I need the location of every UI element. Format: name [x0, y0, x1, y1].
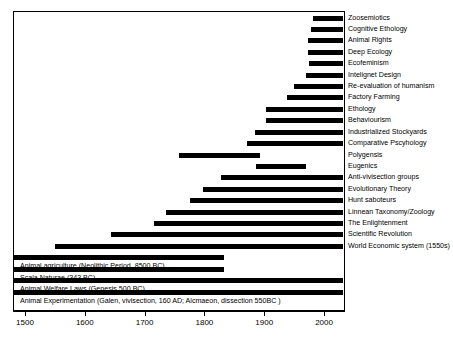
category-label: Behaviourism: [348, 117, 391, 124]
timeline-bar: [190, 198, 343, 203]
timeline-bar: [203, 187, 343, 192]
category-label: Re-evaluation of humanism: [348, 83, 434, 90]
plot-right-edge-rule: [344, 11, 345, 311]
x-axis-tick-label: 2000: [315, 319, 333, 327]
timeline-bar: [308, 38, 343, 43]
timeline-bar: [221, 175, 343, 180]
category-label: World Economic system (1550s): [348, 243, 450, 250]
timeline-bar: [308, 50, 343, 55]
x-axis-tick-label: 1600: [76, 319, 94, 327]
x-axis-tick: [85, 311, 86, 316]
timeline-bar: [13, 255, 224, 260]
category-label: Scientific Revolution: [348, 231, 412, 238]
inline-bar-label: Animal agriculture (Neolithic Period, 85…: [20, 263, 165, 270]
timeline-bar: [154, 221, 344, 226]
category-label: Deep Ecology: [348, 49, 392, 56]
inline-bar-label: Animal Experimentation (Galen, vivisecti…: [20, 298, 281, 305]
category-label: The Enlightenment: [348, 220, 408, 227]
x-axis-tick-label: 1500: [16, 319, 34, 327]
category-label: Linnean Taxonomy/Zoology: [348, 209, 435, 216]
category-label: Ethology: [348, 106, 376, 113]
category-label: Industrialized Stockyards: [348, 129, 427, 136]
category-label: Polygensis: [348, 152, 382, 159]
x-axis-tick: [264, 311, 265, 316]
timeline-chart: ZoosemioticsCognitive EthologyAnimal Rig…: [0, 0, 453, 344]
category-label: Ecofeminism: [348, 60, 389, 67]
x-axis-tick-label: 1800: [196, 319, 214, 327]
timeline-bar: [179, 153, 260, 158]
category-label: Animal Rights: [348, 37, 392, 44]
x-axis-tick: [145, 311, 146, 316]
category-label: Cognitive Ethology: [348, 26, 407, 33]
category-label: Zoosemiotics: [348, 15, 390, 22]
x-axis-tick-label: 1700: [136, 319, 154, 327]
timeline-bar: [313, 16, 343, 21]
timeline-bar: [309, 61, 344, 66]
category-label: Evolutionary Theory: [348, 186, 411, 193]
timeline-bar: [287, 95, 343, 100]
x-axis-tick: [324, 311, 325, 316]
x-axis-tick-label: 1900: [255, 319, 273, 327]
timeline-bar: [55, 244, 343, 249]
timeline-bar: [247, 141, 343, 146]
category-label: Intelignet Design: [348, 72, 401, 79]
timeline-bar: [266, 107, 343, 112]
timeline-bar: [166, 210, 344, 215]
x-axis-tick: [25, 311, 26, 316]
category-label: Anti-vivisection groups: [348, 174, 419, 181]
timeline-bar: [311, 27, 343, 32]
category-label: Comparative Pscyhology: [348, 140, 426, 147]
timeline-bar: [256, 164, 306, 169]
x-axis-line: [13, 311, 345, 312]
timeline-bar: [306, 73, 343, 78]
category-label: Eugenics: [348, 163, 377, 170]
timeline-bar: [294, 84, 343, 89]
timeline-bar: [266, 118, 343, 123]
timeline-bar: [111, 232, 344, 237]
inline-bar-label: Animal Welfare Laws (Genesis 500 BC): [20, 286, 145, 293]
category-label: Hunt saboteurs: [348, 197, 396, 204]
category-label: Factory Farming: [348, 94, 400, 101]
timeline-bar: [255, 130, 343, 135]
inline-bar-label: Scala Naturae (343 BC): [20, 275, 95, 282]
x-axis-tick: [204, 311, 205, 316]
